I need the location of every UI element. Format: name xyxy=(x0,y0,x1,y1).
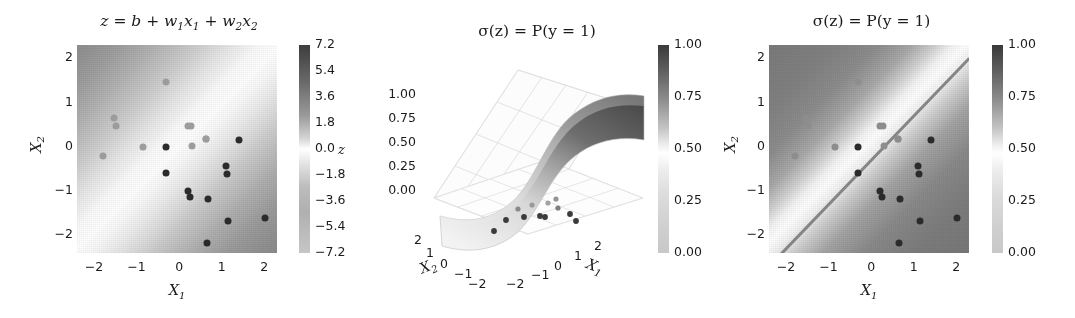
probability-y-axis-label: X2 xyxy=(722,129,741,159)
data-point xyxy=(163,170,170,177)
panel-linear-score: z = b + w1x1 + w2x2 −2−1012 −2−1012 X2 X… xyxy=(0,0,358,318)
axis-tick-label: 0.50 xyxy=(372,134,416,149)
axis-label-subscript: 2 xyxy=(729,136,740,142)
linear-score-colorbar xyxy=(299,45,310,253)
data-point xyxy=(113,122,120,129)
axis-tick-label: −1 xyxy=(531,267,549,282)
axis-tick-label: 1.00 xyxy=(372,86,416,101)
axis-tick-label: −2 xyxy=(78,259,110,274)
data-point xyxy=(916,218,923,225)
axis-tick-label: 0 xyxy=(554,258,562,273)
colorbar-tick-label: 5.4 xyxy=(315,62,335,77)
colorbar-gradient xyxy=(299,45,310,253)
axis-tick-label: 2 xyxy=(248,259,280,274)
axis-tick-label: −1 xyxy=(47,182,73,197)
data-point xyxy=(879,194,886,201)
axis-tick-label: −1 xyxy=(739,182,765,197)
colorbar-tick-label: 0.00 xyxy=(674,244,702,259)
axis-label-base: X xyxy=(861,282,871,298)
colorbar-tick-label: 0.00 xyxy=(1008,244,1036,259)
colorbar-gradient xyxy=(658,45,669,253)
axis-tick-label: 0 xyxy=(47,138,73,153)
axis-tick-label: 2 xyxy=(940,259,972,274)
data-point xyxy=(915,171,922,178)
axis-tick-label: 1 xyxy=(47,94,73,109)
data-point xyxy=(831,143,838,150)
colorbar-tick-label: −1.8 xyxy=(315,166,345,181)
data-point xyxy=(954,215,961,222)
axis-tick-label: 0.25 xyxy=(372,158,416,173)
linear-score-colorbar-label: z xyxy=(338,142,345,157)
data-point xyxy=(880,142,887,149)
data-point xyxy=(162,79,169,86)
axis-tick-label: 2 xyxy=(594,238,602,253)
axis-tick-label: 1 xyxy=(739,94,765,109)
data-point xyxy=(927,136,934,143)
linear-score-y-axis-label: X2 xyxy=(28,129,47,159)
surface-colorbar xyxy=(658,45,669,253)
colorbar-tick-label: 1.00 xyxy=(1008,36,1036,51)
data-point xyxy=(855,143,862,150)
colorbar-tick-label: −3.6 xyxy=(315,192,345,207)
axis-tick-label: 2 xyxy=(414,232,422,247)
colorbar-tick-label: 0.75 xyxy=(674,88,702,103)
data-point xyxy=(223,171,230,178)
colorbar-tick-label: 3.6 xyxy=(315,88,335,103)
colorbar-tick-label: 0.50 xyxy=(674,140,702,155)
colorbar-tick-label: −5.4 xyxy=(315,218,345,233)
colorbar-tick-label: 7.2 xyxy=(315,36,335,51)
axis-tick-label: 0.00 xyxy=(372,182,416,197)
logistic-regression-figure: z = b + w1x1 + w2x2 −2−1012 −2−1012 X2 X… xyxy=(0,0,1075,318)
colorbar-tick-label: −7.2 xyxy=(315,244,345,259)
axis-tick-label: −2 xyxy=(47,226,73,241)
linear-score-x-axis-label: X1 xyxy=(77,282,277,301)
axis-tick-label: 2 xyxy=(739,49,765,64)
data-point xyxy=(202,135,209,142)
colorbar-tick-label: 0.25 xyxy=(674,192,702,207)
axis-label-base: X xyxy=(722,142,738,152)
probability-heatmap xyxy=(769,45,969,253)
sigmoid-surface-plot-area xyxy=(398,48,668,278)
axis-tick-label: −1 xyxy=(121,259,153,274)
axis-label-subscript: 2 xyxy=(35,136,46,142)
axis-tick-label: −1 xyxy=(813,259,845,274)
panel-surface-title: σ(z) = P(y = 1) xyxy=(358,22,716,40)
data-point xyxy=(914,163,921,170)
axis-tick-label: 0 xyxy=(163,259,195,274)
axis-label-subscript: 1 xyxy=(871,290,877,301)
axis-tick-label: 1 xyxy=(206,259,238,274)
data-point xyxy=(187,194,194,201)
axis-label-base: X xyxy=(28,142,44,152)
data-point xyxy=(805,122,812,129)
panel-probability-title: σ(z) = P(y = 1) xyxy=(692,12,1051,30)
colorbar-tick-label: 1.8 xyxy=(315,114,335,129)
data-point xyxy=(894,135,901,142)
data-point xyxy=(897,196,904,203)
data-point xyxy=(163,143,170,150)
surface-3d-svg xyxy=(398,48,668,278)
colorbar-tick-label: 0.75 xyxy=(1008,88,1036,103)
axis-tick-label: −2 xyxy=(468,276,486,291)
data-point xyxy=(803,115,810,122)
probability-x-axis-label: X1 xyxy=(769,282,969,301)
axis-label-subscript: 1 xyxy=(179,290,185,301)
panel-sigmoid-surface: σ(z) = P(y = 1) xyxy=(358,0,716,318)
axis-tick-label: 2 xyxy=(47,49,73,64)
data-point xyxy=(111,115,118,122)
data-point xyxy=(188,142,195,149)
data-point xyxy=(224,218,231,225)
linear-score-heatmap xyxy=(77,45,277,253)
data-point xyxy=(139,143,146,150)
data-point xyxy=(876,123,883,130)
colorbar-tick-label: 1.00 xyxy=(674,36,702,51)
probability-plot-area xyxy=(769,45,969,253)
data-point xyxy=(896,240,903,247)
data-point xyxy=(262,215,269,222)
probability-colorbar xyxy=(992,45,1003,253)
colorbar-gradient xyxy=(992,45,1003,253)
colorbar-tick-label: 0.0 xyxy=(315,140,335,155)
data-point xyxy=(205,196,212,203)
data-point xyxy=(184,123,191,130)
axis-tick-label: −2 xyxy=(739,226,765,241)
data-point xyxy=(854,79,861,86)
